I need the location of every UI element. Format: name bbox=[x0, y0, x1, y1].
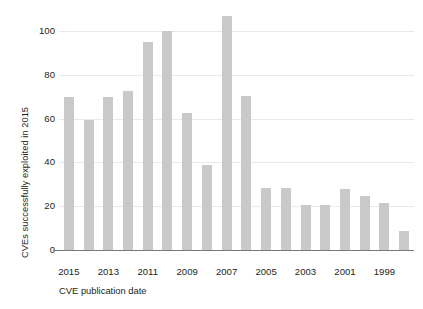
y-tick-label: 0 bbox=[15, 245, 55, 255]
y-tick-label: 40 bbox=[15, 157, 55, 167]
bar bbox=[399, 231, 409, 250]
bar bbox=[182, 113, 192, 250]
y-tick-label: 80 bbox=[15, 70, 55, 80]
bar bbox=[379, 203, 389, 250]
x-axis-line bbox=[53, 250, 414, 251]
bar bbox=[261, 188, 271, 250]
x-tick-label: 2007 bbox=[206, 266, 248, 278]
bar bbox=[202, 165, 212, 250]
bar bbox=[103, 97, 113, 250]
x-axis-tick-labels: 201520132011200920072005200320011999 bbox=[59, 12, 414, 72]
bar bbox=[123, 91, 133, 250]
y-tick-label: 20 bbox=[15, 201, 55, 211]
bar bbox=[241, 96, 251, 250]
x-tick-label: 2011 bbox=[127, 266, 169, 278]
bar bbox=[281, 188, 291, 250]
y-axis-tick-labels: 020406080100 bbox=[10, 0, 55, 309]
bar bbox=[340, 189, 350, 250]
bar bbox=[143, 42, 153, 250]
x-tick-label: 2001 bbox=[324, 266, 366, 278]
bar bbox=[64, 97, 74, 250]
bar bbox=[320, 205, 330, 250]
x-tick-label: 2005 bbox=[245, 266, 287, 278]
x-tick-label: 1999 bbox=[363, 266, 405, 278]
bar-chart: CVEs successfully exploited in 2015 0204… bbox=[0, 0, 423, 309]
x-tick-label: 2009 bbox=[166, 266, 208, 278]
x-axis-title: CVE publication date bbox=[59, 285, 147, 297]
bar bbox=[360, 196, 370, 250]
x-tick-label: 2013 bbox=[87, 266, 129, 278]
x-tick-label: 2015 bbox=[48, 266, 90, 278]
bar bbox=[84, 120, 94, 250]
y-tick-label: 60 bbox=[15, 114, 55, 124]
y-tick-label: 100 bbox=[15, 26, 55, 36]
bar bbox=[301, 205, 311, 250]
x-tick-label: 2003 bbox=[285, 266, 327, 278]
